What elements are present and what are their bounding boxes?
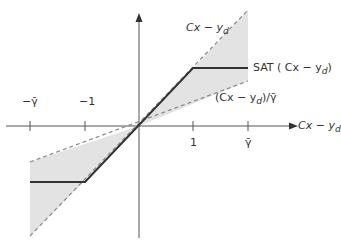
lower-line-label: (Cx − yd)/γ̄	[215, 92, 277, 105]
upper-line-label: Cx − yd	[186, 22, 229, 35]
sat-label: SAT ( Cx − yd)	[253, 62, 332, 75]
y-axis-arrow-icon	[136, 13, 143, 22]
x-axis-label: Cx − yd	[298, 120, 341, 133]
tick-label-gamma: γ̄	[245, 137, 252, 148]
x-axis-arrow-icon	[289, 123, 298, 130]
tick-label-1: 1	[190, 137, 197, 148]
tick-label-neg-1: −1	[79, 96, 95, 107]
tick-label-neg-gamma: −γ̄	[22, 96, 38, 107]
